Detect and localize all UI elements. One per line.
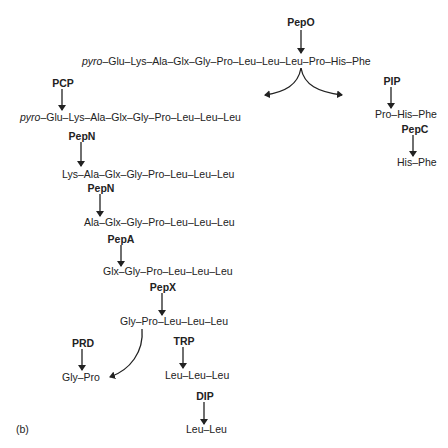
pyro-prefix: pyro (20, 111, 40, 123)
peptide-pepn1-product: Lys–Ala–Glx–Gly–Pro–Leu–Leu–Leu (62, 168, 234, 180)
enzyme-label-dip: DIP (196, 390, 214, 402)
peptide-pepx-product: Gly–Pro–Leu–Leu–Leu (120, 315, 228, 327)
enzyme-label-pepn-2: PepN (88, 182, 115, 194)
peptide-pro-his-phe: Pro–His–Phe (375, 108, 437, 120)
enzyme-label-prd: PRD (72, 337, 94, 349)
enzyme-label-pepa: PepA (108, 233, 135, 245)
pepx-gly-pro-curve-arrow-icon (110, 329, 142, 377)
enzyme-label-pcp: PCP (52, 77, 74, 89)
enzyme-label-pip: PIP (384, 75, 401, 87)
enzyme-label-pepo: PepO (287, 16, 314, 28)
peptide-leu-leu-leu: Leu–Leu–Leu (165, 369, 229, 381)
enzyme-label-trp: TRP (174, 335, 195, 347)
peptide-chain: –Glu–Lys–Ala–Glx–Gly–Pro–Leu–Leu–Leu–Pro… (102, 55, 370, 67)
enzyme-label-pepn-1: PepN (69, 130, 96, 142)
peptide-substrate: pyro–Glu–Lys–Ala–Glx–Gly–Pro–Leu–Leu–Leu… (82, 55, 371, 67)
peptide-leu-leu: Leu–Leu (186, 423, 227, 435)
peptide-pepn2-product: Ala–Glx–Gly–Pro–Leu–Leu–Leu (84, 216, 235, 228)
pepo-right-curve-arrow-icon (301, 68, 342, 95)
pepo-left-curve-arrow-icon (265, 68, 301, 95)
pyro-prefix: pyro (82, 55, 102, 67)
peptide-chain: –Glu–Lys–Ala–Glx–Gly–Pro–Leu–Leu–Leu (40, 111, 240, 123)
peptide-his-phe: His–Phe (397, 156, 437, 168)
enzyme-label-pepx: PepX (150, 281, 176, 293)
panel-label: (b) (16, 423, 29, 435)
peptide-pepa-product: Glx–Gly–Pro–Leu–Leu–Leu (103, 265, 233, 277)
peptide-pcp-substrate: pyro–Glu–Lys–Ala–Glx–Gly–Pro–Leu–Leu–Leu (20, 111, 241, 123)
peptide-gly-pro: Gly–Pro (62, 371, 100, 383)
enzyme-label-pepc: PepC (402, 123, 429, 135)
